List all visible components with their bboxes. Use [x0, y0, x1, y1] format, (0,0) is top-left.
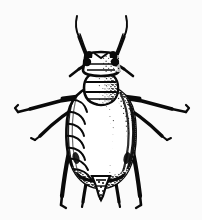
- figure-container: [0, 0, 202, 220]
- head: [83, 51, 121, 78]
- right-compound-eye: [111, 58, 119, 66]
- aphid-dorsal-drawing: [0, 0, 202, 220]
- left-compound-eye: [83, 58, 91, 66]
